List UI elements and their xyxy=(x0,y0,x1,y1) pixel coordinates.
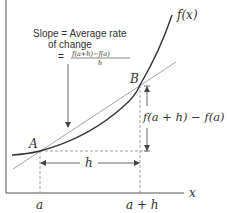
annotation-denominator: h xyxy=(98,59,102,67)
run-label: h xyxy=(85,156,93,170)
x-axis-label: x xyxy=(189,186,196,200)
point-b-label: B xyxy=(129,72,139,86)
point-a-label: A xyxy=(28,137,38,151)
annotation-equals: = xyxy=(58,51,64,62)
annotation-line2: of change xyxy=(48,39,92,50)
x-tick-a: a xyxy=(36,198,43,212)
rise-label: f(a + h) − f(a) xyxy=(142,110,224,124)
secant-slope-diagram: h f(a + h) − f(a) Slope = Average rate o… xyxy=(0,0,227,213)
annotation-line1: Slope = Average rate xyxy=(33,28,127,39)
annotation-numerator: f(a+h)−f(a) xyxy=(71,50,110,58)
x-tick-a-plus-h: a + h xyxy=(126,198,159,212)
curve-label: f(x) xyxy=(176,8,198,22)
